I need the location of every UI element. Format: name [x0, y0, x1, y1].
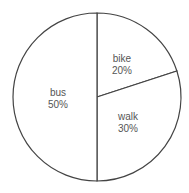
- pie-slices: [13, 13, 181, 181]
- slice-label-bike-name: bike: [113, 53, 132, 64]
- slice-label-bike-pct: 20%: [112, 65, 132, 76]
- pie-chart: bike 20% walk 30% bus 50%: [0, 0, 189, 193]
- slice-label-walk-pct: 30%: [118, 123, 138, 134]
- slice-label-bus-name: bus: [50, 87, 66, 98]
- slice-label-walk-name: walk: [117, 111, 139, 122]
- slice-label-bus-pct: 50%: [48, 99, 68, 110]
